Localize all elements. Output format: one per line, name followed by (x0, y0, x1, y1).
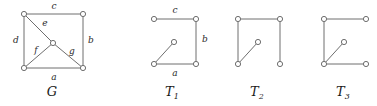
g-node-bottom-left (21, 65, 26, 70)
g-edge-g-label: g (69, 46, 75, 56)
t1-edge-a-label: a (172, 68, 177, 78)
t2-node-bottom-right (277, 61, 282, 66)
g-edge-b-label: b (88, 35, 94, 45)
caption-t2-subscript: 2 (258, 92, 264, 101)
t1-edge-b-label: b (202, 34, 208, 44)
graph-T1: cbaT1 (151, 5, 208, 101)
caption-t1-subscript: 1 (174, 92, 179, 101)
t3-node-center (341, 39, 346, 44)
t1-edge-diagonal (156, 44, 173, 62)
g-node-top-left (21, 11, 26, 16)
t1-edge-c-label: c (172, 5, 177, 15)
g-node-bottom-right (80, 65, 85, 70)
g-edge-f-label: f (33, 45, 39, 55)
g-edge-c-label: c (51, 1, 56, 11)
t2-node-bottom-left (235, 61, 240, 66)
t2-node-center (255, 39, 260, 44)
t3-edge-diagonal (326, 44, 343, 62)
g-edge-a-label: a (51, 72, 56, 82)
caption-t3-subscript: 3 (345, 92, 350, 101)
t1-node-center (171, 39, 176, 44)
t1-node-bottom-right (193, 61, 198, 66)
caption-t2: T2 (250, 84, 264, 101)
t2-edge-diagonal (240, 44, 257, 62)
t3-node-bottom-left (321, 61, 326, 66)
graph-figure: cbadefgGcbaT1T2T3 (0, 0, 377, 106)
t2-node-top-right (277, 16, 282, 21)
graph-T3: T3 (321, 16, 368, 101)
graph-T2: T2 (235, 16, 282, 101)
g-edge-f (26, 45, 51, 67)
t1-node-top-left (151, 16, 156, 21)
t1-node-bottom-left (151, 61, 156, 66)
g-node-center (50, 40, 55, 45)
caption-t1: T1 (165, 84, 179, 101)
caption-t3: T3 (336, 84, 350, 101)
g-node-top-right (80, 11, 85, 16)
g-edge-d-label: d (13, 35, 19, 45)
t3-node-bottom-right (363, 61, 368, 66)
t2-node-top-left (235, 16, 240, 21)
t3-node-top-left (321, 16, 326, 21)
t3-node-top-right (363, 16, 368, 21)
graph-G: cbadefgG (13, 1, 94, 99)
g-edge-g (55, 45, 81, 67)
g-edge-e-label: e (42, 18, 47, 28)
caption-g: G (47, 84, 57, 99)
t1-node-top-right (193, 16, 198, 21)
